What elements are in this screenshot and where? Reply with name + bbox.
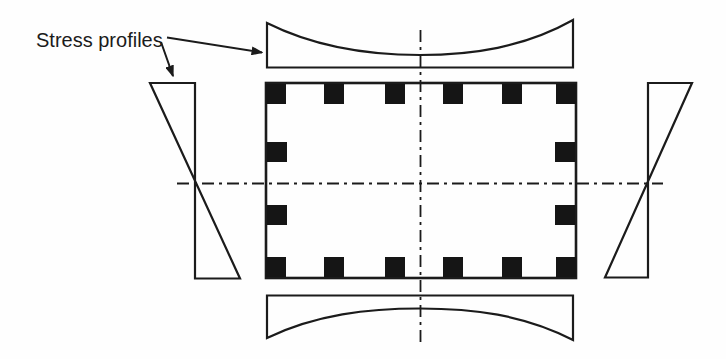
stress-profiles-label: Stress profiles (36, 29, 163, 51)
right-web-stress-profile (605, 83, 692, 278)
rebar-square (267, 142, 287, 162)
rebar-square (266, 257, 286, 277)
rebar-square (324, 84, 344, 104)
rebar-square (443, 257, 463, 277)
rebar-square (324, 257, 344, 277)
rebar-square (556, 257, 576, 277)
rebar-square (556, 84, 576, 104)
figure-canvas: Stress profiles (0, 0, 726, 359)
rebar-square (502, 84, 522, 104)
rebar-square (443, 84, 463, 104)
rebar-square (555, 142, 575, 162)
leader-arrow-to-top-profile (167, 38, 262, 53)
rebar-square (385, 257, 405, 277)
stress-profile-diagram: Stress profiles (0, 0, 726, 359)
rebar-square (266, 84, 286, 104)
rebar-square (385, 84, 405, 104)
rebar-square (267, 205, 287, 225)
rebar-square (555, 205, 575, 225)
leader-arrow-to-left-profile (161, 42, 173, 76)
left-web-stress-profile (150, 83, 240, 279)
rebar-square (502, 257, 522, 277)
